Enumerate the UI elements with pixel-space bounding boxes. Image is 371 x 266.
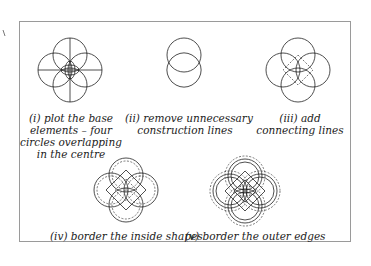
caption-step-iii: (iii) add connecting lines xyxy=(250,112,350,136)
step-iv-inner-border-icon xyxy=(92,156,160,224)
step-i-base-circles-icon xyxy=(36,36,104,104)
step-iii-connecting-lines-icon xyxy=(264,36,332,104)
caption-line: connecting lines xyxy=(250,124,350,136)
caption-line: (ii) remove unnecessary xyxy=(125,112,245,124)
caption-line: (iv) border the inside shapes xyxy=(50,230,200,242)
caption-step-v: (v) border the outer edges xyxy=(185,230,315,242)
margin-mark xyxy=(2,30,6,36)
step-ii-outline-icon xyxy=(150,36,218,104)
caption-step-ii: (ii) remove unnecessary construction lin… xyxy=(125,112,245,136)
caption-line: (v) border the outer edges xyxy=(185,230,315,242)
caption-line: construction lines xyxy=(125,124,245,136)
caption-line: (iii) add xyxy=(250,112,350,124)
caption-step-iv: (iv) border the inside shapes xyxy=(50,230,200,242)
caption-line: in the centre xyxy=(16,148,126,160)
caption-line: elements – four xyxy=(16,124,126,136)
caption-step-i: (i) plot the base elements – four circle… xyxy=(16,112,126,160)
caption-line: (i) plot the base xyxy=(16,112,126,124)
step-v-outer-border-icon xyxy=(210,156,280,226)
caption-line: circles overlapping xyxy=(16,136,126,148)
